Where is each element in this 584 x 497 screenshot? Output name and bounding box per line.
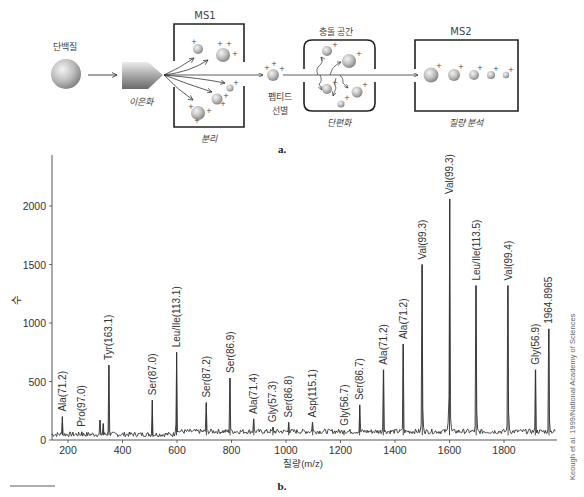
svg-text:+: + xyxy=(271,60,277,68)
x-tick-label: 1600 xyxy=(438,444,462,456)
peak-labels: Ala(71.2)Pro(97.0)Tyr(163.1)Ser(87.0)Leu… xyxy=(57,154,554,427)
ions-collision: +++++ xyxy=(322,41,368,108)
peak-label: Gly(56.7) xyxy=(339,385,350,426)
svg-text:+: + xyxy=(188,103,194,111)
mass-analysis-label: 질량 분석 xyxy=(449,118,485,128)
peak-label: Ser(86.9) xyxy=(225,331,236,373)
ms2-label: MS2 xyxy=(450,26,471,37)
protein-sphere-icon xyxy=(51,59,81,89)
svg-text:+: + xyxy=(332,41,338,49)
x-tick-label: 400 xyxy=(114,444,132,456)
svg-text:+: + xyxy=(220,100,226,108)
peak-label: Val(99.4) xyxy=(503,241,514,281)
collision-cell-box xyxy=(304,40,375,111)
y-tick-label: 2000 xyxy=(23,200,47,212)
svg-text:+: + xyxy=(436,62,442,70)
mass-spectrum-chart: 0500100015002000 20040060080010001200140… xyxy=(10,154,577,492)
x-tick-label: 600 xyxy=(168,444,186,456)
y-ticks: 0500100015002000 xyxy=(23,200,52,446)
x-tick-label: 1000 xyxy=(274,444,298,456)
y-tick-label: 500 xyxy=(28,376,46,388)
peak-label: Ser(86.7) xyxy=(354,358,365,400)
svg-text:+: + xyxy=(232,50,238,58)
y-tick-label: 1000 xyxy=(23,317,47,329)
svg-text:+: + xyxy=(356,50,362,58)
ion-trajectories xyxy=(164,58,263,100)
y-tick-label: 1500 xyxy=(23,259,47,271)
x-tick-label: 800 xyxy=(223,444,241,456)
peak-label: Val(99.3) xyxy=(444,154,455,194)
svg-text:+: + xyxy=(362,81,368,89)
peak-label: Pro(97.0) xyxy=(76,385,87,427)
workflow-diagram: 단백질 이온화 MS1 분리 ++++ +++ +++ xyxy=(51,10,518,155)
x-tick-label: 1200 xyxy=(329,444,353,456)
x-tick-label: 200 xyxy=(59,444,77,456)
peak-label: Gly(57.3) xyxy=(267,381,278,422)
svg-text:+: + xyxy=(493,65,499,73)
x-tick-label: 1800 xyxy=(492,444,516,456)
peak-label: Ser(86.8) xyxy=(283,376,294,418)
separation-label: 분리 xyxy=(201,134,218,144)
svg-text:+: + xyxy=(226,40,232,48)
peak-label: Val(99.3) xyxy=(417,220,428,260)
peptide-selection-label-1: 펩티드 xyxy=(268,92,292,102)
part-a-label: a. xyxy=(278,143,287,155)
svg-text:+: + xyxy=(477,64,483,72)
x-axis-label: 질량(m/z) xyxy=(283,458,323,469)
ionizer-nozzle-icon xyxy=(122,62,163,89)
svg-text:+: + xyxy=(279,65,285,73)
svg-text:+: + xyxy=(264,64,270,72)
peak-label: Ala(71.2) xyxy=(378,324,389,365)
svg-text:+: + xyxy=(508,66,514,74)
svg-text:+: + xyxy=(332,79,338,87)
part-b-label: b. xyxy=(278,480,287,492)
svg-text:+: + xyxy=(223,92,229,100)
svg-text:+: + xyxy=(217,40,223,48)
peak-label: Ala(71.2) xyxy=(57,371,68,412)
ions-ms2: +++++ xyxy=(424,62,515,83)
svg-text:+: + xyxy=(233,79,239,87)
peak-label: Leu/Ile(113.5) xyxy=(471,220,482,281)
peak-label: Ser(87.2) xyxy=(201,356,212,398)
peak-label: Asp(115.1) xyxy=(307,369,318,417)
protein-label: 단백질 xyxy=(53,41,77,52)
peak-label: 1964.8965 xyxy=(543,276,554,324)
ions-ms1: ++++ +++ +++ xyxy=(188,38,239,125)
y-axis-label: 수 xyxy=(10,295,22,305)
peak-label: Ser(87.0) xyxy=(147,354,158,396)
svg-text:+: + xyxy=(344,94,350,102)
peak-label: Leu/Ile(113.1) xyxy=(171,286,182,347)
ms1-label: MS1 xyxy=(194,10,215,21)
svg-text:+: + xyxy=(458,63,464,71)
peak-label: Gly(56.9) xyxy=(530,324,541,365)
peak-label: Tyr(163.1) xyxy=(103,315,114,361)
figure-canvas: 단백질 이온화 MS1 분리 ++++ +++ +++ xyxy=(0,0,584,497)
peak-label: Ala(71.4) xyxy=(248,373,259,414)
svg-text:+: + xyxy=(206,107,212,115)
peptide-selection-label-2: 선별 xyxy=(272,106,288,116)
ionization-label: 이온화 xyxy=(129,97,154,107)
collision-cell-label: 충돌 공간 xyxy=(319,27,354,37)
credit-text: Keough et al. 1999/National Academy of S… xyxy=(568,313,577,480)
y-tick-label: 0 xyxy=(40,434,46,446)
x-ticks: 20040060080010001200140016001800 xyxy=(59,440,516,456)
fragmentation-label: 단편화 xyxy=(327,118,352,128)
x-tick-label: 1400 xyxy=(383,444,407,456)
svg-text:+: + xyxy=(194,117,200,125)
svg-text:+: + xyxy=(191,38,197,46)
peak-label: Ala(71.2) xyxy=(398,298,409,339)
